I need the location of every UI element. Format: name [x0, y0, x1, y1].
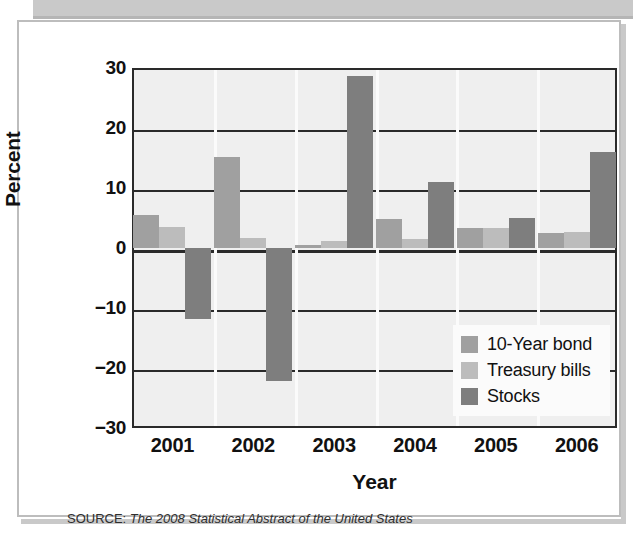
group-separator	[376, 70, 379, 426]
figure-frame: Percent 3020100−10−20−30 10-Year bondTre…	[17, 20, 621, 517]
group-separator	[214, 70, 217, 426]
legend-item-label: Stocks	[487, 386, 540, 407]
bar-2001-10-year-bond[interactable]	[133, 215, 159, 248]
x-tick-label-2005: 2005	[455, 434, 536, 457]
bar-2005-10-year-bond[interactable]	[457, 228, 483, 248]
source-title: The 2008 Statistical Abstract of the Uni…	[130, 511, 413, 526]
y-axis-tick-labels: 3020100−10−20−30	[64, 68, 126, 428]
x-axis-tick-labels: 200120022003200420052006	[132, 434, 617, 462]
bar-2006-stocks[interactable]	[590, 152, 616, 248]
page-header-band-shadow	[33, 16, 633, 19]
figure-page: Percent 3020100−10−20−30 10-Year bondTre…	[0, 0, 643, 545]
source-keyword: SOURCE:	[67, 511, 126, 526]
source-note: SOURCE: The 2008 Statistical Abstract of…	[67, 511, 413, 526]
x-tick-label-2002: 2002	[213, 434, 294, 457]
bar-2004-stocks[interactable]	[428, 182, 454, 248]
bar-2001-stocks[interactable]	[185, 248, 211, 319]
y-tick-label: 0	[68, 237, 126, 259]
y-tick-label: 10	[68, 177, 126, 199]
legend: 10-Year bondTreasury billsStocks	[453, 325, 610, 416]
y-tick-label: 30	[68, 57, 126, 79]
bar-2003-stocks[interactable]	[347, 76, 373, 248]
x-axis-title: Year	[132, 470, 617, 494]
gridline-20	[134, 130, 615, 132]
bar-2006-treasury-bills[interactable]	[564, 232, 590, 248]
bar-2004-10-year-bond[interactable]	[376, 219, 402, 248]
y-tick-label: −20	[68, 357, 126, 379]
legend-item-stocks[interactable]: Stocks	[461, 383, 602, 409]
x-tick-label-2003: 2003	[294, 434, 375, 457]
x-tick-label-2001: 2001	[132, 434, 213, 457]
legend-swatch-icon	[461, 336, 478, 353]
figure-shadow-right	[621, 24, 626, 524]
bar-2004-treasury-bills[interactable]	[402, 239, 428, 248]
bar-2002-stocks[interactable]	[266, 248, 292, 381]
bar-2003-10-year-bond[interactable]	[295, 245, 321, 248]
bar-2005-treasury-bills[interactable]	[483, 228, 509, 248]
y-axis-title: Percent	[1, 131, 25, 207]
x-tick-label-2004: 2004	[375, 434, 456, 457]
legend-swatch-icon	[461, 388, 478, 405]
bar-2001-treasury-bills[interactable]	[159, 227, 185, 248]
bar-2002-treasury-bills[interactable]	[240, 238, 266, 248]
legend-item-label: 10-Year bond	[487, 334, 592, 355]
x-tick-label-2006: 2006	[536, 434, 617, 457]
y-tick-label: −30	[68, 417, 126, 439]
legend-swatch-icon	[461, 362, 478, 379]
bar-2006-10-year-bond[interactable]	[538, 233, 564, 248]
group-separator	[295, 70, 298, 426]
legend-item-label: Treasury bills	[487, 360, 591, 381]
bar-2002-10-year-bond[interactable]	[214, 157, 240, 248]
gridline-10	[134, 190, 615, 192]
legend-item-treasury-bills[interactable]: Treasury bills	[461, 357, 602, 383]
bar-2003-treasury-bills[interactable]	[321, 241, 347, 248]
legend-item-10-year-bond[interactable]: 10-Year bond	[461, 331, 602, 357]
y-tick-label: 20	[68, 117, 126, 139]
y-tick-label: −10	[68, 297, 126, 319]
bar-2005-stocks[interactable]	[509, 218, 535, 248]
